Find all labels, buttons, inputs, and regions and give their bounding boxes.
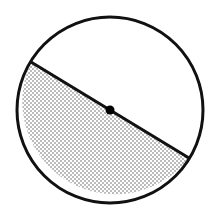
semicircle-diagram <box>0 0 216 217</box>
shaded-semicircle <box>22 62 189 194</box>
center-point <box>106 106 115 115</box>
